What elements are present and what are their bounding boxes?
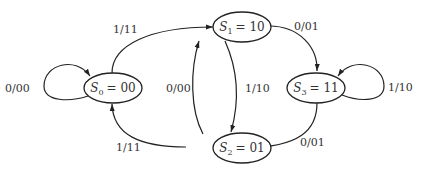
edge-s2-s1 bbox=[193, 41, 203, 134]
state-s3-sub: 3 bbox=[302, 88, 307, 97]
state-s0: S0= 00 bbox=[84, 73, 142, 103]
edge-s3-s3 bbox=[338, 65, 384, 100]
state-s0-sub: 0 bbox=[99, 88, 104, 97]
state-s2-name: S bbox=[219, 141, 227, 155]
state-s0-code: = 00 bbox=[107, 81, 136, 95]
edge-label-s2-s1: 0/00 bbox=[166, 82, 191, 95]
state-s0-name: S bbox=[90, 81, 98, 95]
edge-label-s3-s3: 1/10 bbox=[388, 81, 413, 94]
state-s3: S3= 11 bbox=[287, 73, 345, 103]
state-s2-sub: 2 bbox=[228, 148, 233, 157]
state-s1: S1= 10 bbox=[213, 12, 271, 42]
state-s1-sub: 1 bbox=[228, 27, 233, 36]
edge-s1-s2 bbox=[225, 41, 237, 132]
edge-label-s3-s2: 0/01 bbox=[300, 136, 325, 149]
state-diagram: 0/00 1/11 0/01 1/10 0/00 1/11 1/10 0/01 … bbox=[0, 0, 427, 173]
edge-label-s1-s3: 0/01 bbox=[294, 20, 319, 33]
state-s3-code: = 11 bbox=[310, 81, 339, 95]
svg-text:S3= 11: S3= 11 bbox=[293, 81, 338, 97]
edge-label-s2-s0: 1/11 bbox=[116, 141, 141, 154]
state-s2-code: = 01 bbox=[236, 141, 265, 155]
edge-label-s0-s0: 0/00 bbox=[5, 82, 30, 95]
state-s1-code: = 10 bbox=[236, 20, 265, 34]
state-s3-name: S bbox=[293, 81, 301, 95]
state-s2: S2= 01 bbox=[213, 133, 271, 163]
edge-label-s0-s1: 1/11 bbox=[113, 23, 138, 36]
svg-text:S1= 10: S1= 10 bbox=[219, 20, 264, 36]
edge-label-s1-s2: 1/10 bbox=[245, 82, 270, 95]
svg-text:S2= 01: S2= 01 bbox=[219, 141, 264, 157]
svg-text:S0= 00: S0= 00 bbox=[90, 81, 135, 97]
state-s1-name: S bbox=[219, 20, 227, 34]
edge-s0-s0 bbox=[44, 65, 90, 100]
